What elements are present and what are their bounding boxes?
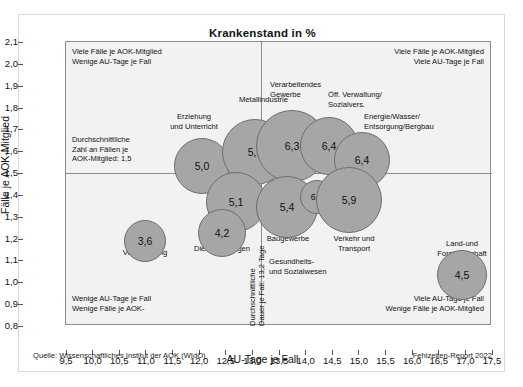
bubble-banken[interactable]: 3,6 (124, 220, 166, 262)
y-axis-tick-mark (18, 129, 23, 130)
y-axis-tick: 1,9 (0, 81, 18, 91)
y-axis-tick-mark (18, 108, 23, 109)
y-axis-tick: 1,7 (0, 124, 18, 134)
bubble-label-energie: Energie/Wasser/ Entsorgung/Bergbau (364, 112, 474, 131)
chart-title: Krankenstand in % (19, 27, 506, 39)
annotation-bottom-left: Wenige AU-Tage je Fall Wenige Fälle je A… (72, 294, 151, 313)
source-note: Quelle: Wissenschaftliches Institut der … (33, 351, 206, 360)
y-axis-tick: 2,1 (0, 37, 18, 47)
bubble-value-dienst: 4,2 (215, 227, 230, 239)
figure-container: Krankenstand in % Fälle je AOK-Mitglied … (18, 14, 505, 372)
y-axis-tick-mark (18, 64, 23, 65)
bubble-value-energie: 6,4 (355, 154, 370, 166)
x-axis-tick-mark (332, 350, 333, 355)
y-axis-tick-mark (18, 86, 23, 87)
y-axis-tick: 1,6 (0, 146, 18, 156)
y-axis-tick-mark (18, 151, 23, 152)
annotation-top-right: Viele Fälle je AOK-Mitglied Viele AU-Tag… (394, 47, 484, 66)
y-axis-tick-mark (18, 304, 23, 305)
bubble-value-verkehr: 5,9 (342, 194, 357, 206)
bubble-label-erziehung: Erziehung und Unterricht (154, 112, 234, 131)
bubble-dienst[interactable]: 4,2 (198, 209, 246, 257)
y-axis-tick: 1,8 (0, 103, 18, 113)
bubble-label-gesundheit: Gesundheits- und Sozialwesen (269, 257, 364, 276)
y-axis-tick-mark (18, 217, 23, 218)
y-axis-tick: 1,0 (0, 277, 18, 287)
y-axis-tick: 1,2 (0, 234, 18, 244)
report-note: Fehlzeiten-Report 2022 (413, 351, 492, 360)
x-axis-tick-mark (385, 350, 386, 355)
y-axis-tick-mark (18, 42, 23, 43)
bubble-value-bau: 5,4 (280, 201, 295, 213)
y-axis-tick: 0,8 (0, 321, 18, 331)
bubble-value-verarbeitendes: 6,3 (285, 140, 300, 152)
x-axis-tick-mark (279, 350, 280, 355)
y-axis-tick: 1,1 (0, 255, 18, 265)
y-axis-tick: 1,3 (0, 212, 18, 222)
y-axis-tick-mark (18, 260, 23, 261)
bubble-value-erziehung: 5,0 (195, 160, 210, 172)
bubble-label-oeff: Öff. Verwaltung/ Sozialvers. (328, 90, 408, 109)
y-axis-tick-mark (18, 239, 23, 240)
bubble-value-banken: 3,6 (138, 235, 153, 247)
bubble-value-land: 4,5 (455, 269, 470, 281)
bubble-verkehr[interactable]: 5,9 (316, 167, 382, 233)
y-axis-tick-mark (18, 282, 23, 283)
x-axis-tick-mark (225, 350, 226, 355)
y-axis-tick: 1,4 (0, 190, 18, 200)
y-axis-tick: 1,5 (0, 168, 18, 178)
bubble-value-oeff: 6,4 (322, 140, 337, 152)
y-axis-tick-mark (18, 195, 23, 196)
y-axis-tick-mark (18, 173, 23, 174)
plot-area: Viele Fälle je AOK-Mitglied Wenige AU-Ta… (65, 41, 491, 325)
y-axis-tick: 0,9 (0, 299, 18, 309)
x-axis-tick-mark (358, 350, 359, 355)
x-axis-tick-mark (252, 350, 253, 355)
annotation-top-left: Viele Fälle je AOK-Mitglied Wenige AU-Ta… (72, 47, 162, 66)
bubble-land[interactable]: 4,5 (437, 250, 487, 300)
bubble-value-handel: 5,1 (229, 196, 244, 208)
y-axis-tick: 2,0 (0, 59, 18, 69)
annotation-mean-y: Durchschnittliche Zahl an Fällen je AOK-… (72, 135, 132, 164)
y-axis-tick-mark (18, 326, 23, 327)
bubble-label-verkehr: Verkehr und Transport (319, 234, 389, 253)
x-axis-tick-mark (305, 350, 306, 355)
